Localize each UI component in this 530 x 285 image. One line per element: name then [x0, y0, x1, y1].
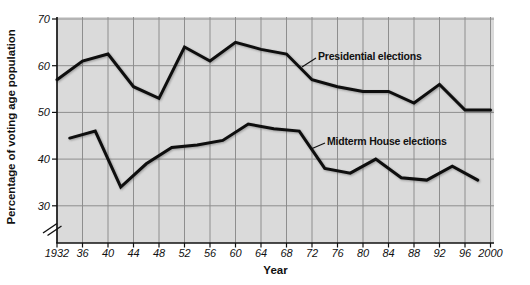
x-tick-label: 52 — [178, 247, 190, 259]
x-tick-label: 64 — [255, 247, 267, 259]
x-tick-label: 40 — [102, 247, 115, 259]
x-tick-label: 48 — [153, 247, 166, 259]
y-tick-label: 70 — [38, 13, 51, 25]
x-tick-label: 60 — [229, 247, 242, 259]
series-label-midterm-house-elections: Midterm House elections — [327, 135, 447, 147]
x-tick-label: 88 — [408, 247, 421, 259]
series-label-presidential-elections: Presidential elections — [318, 50, 422, 62]
x-tick-label: 68 — [280, 247, 293, 259]
x-tick-label: 56 — [204, 247, 217, 259]
y-tick-label: 50 — [38, 106, 51, 118]
x-tick-label: 1932 — [45, 247, 69, 259]
x-tick-label: 2000 — [477, 247, 503, 259]
chart-canvas: 3040506070193236404448525660646872768084… — [0, 0, 530, 285]
x-tick-label: 96 — [459, 247, 472, 259]
x-tick-label: 44 — [127, 247, 139, 259]
y-tick-label: 30 — [38, 200, 51, 212]
x-tick-label: 84 — [382, 247, 394, 259]
x-tick-label: 36 — [76, 247, 89, 259]
x-tick-label: 92 — [433, 247, 445, 259]
voter-turnout-line-chart: 3040506070193236404448525660646872768084… — [0, 0, 530, 285]
x-axis-title: Year — [57, 264, 494, 276]
y-tick-label: 40 — [38, 153, 51, 165]
x-tick-label: 80 — [357, 247, 370, 259]
axis-break-mark — [43, 224, 57, 234]
y-tick-label: 60 — [38, 60, 51, 72]
y-axis-title: Percentage of voting age population — [5, 29, 17, 224]
x-tick-label: 72 — [306, 247, 318, 259]
x-tick-label: 76 — [331, 247, 344, 259]
